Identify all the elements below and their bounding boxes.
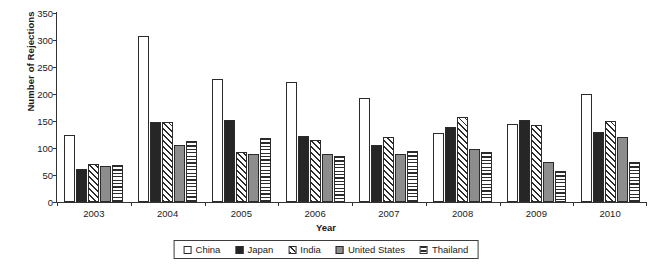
- x-axis-tick-label: 2003: [57, 208, 131, 219]
- bar-thailand-2004[interactable]: [186, 141, 197, 202]
- bar-india-2005[interactable]: [236, 152, 247, 202]
- bar-china-2008[interactable]: [433, 133, 444, 202]
- bar-united-states-2006[interactable]: [322, 154, 333, 202]
- bar-india-2007[interactable]: [383, 137, 394, 202]
- bar-group-2010: 2010: [573, 13, 647, 202]
- plot-area: 050100150200250300350 200320042005200620…: [57, 13, 647, 202]
- legend-swatch-icon: [288, 246, 296, 254]
- bar-japan-2005[interactable]: [224, 120, 235, 202]
- legend-label: United States: [348, 244, 405, 255]
- bar-india-2006[interactable]: [310, 140, 321, 202]
- x-axis-tick-mark: [646, 202, 647, 206]
- bar-china-2004[interactable]: [138, 36, 149, 202]
- y-axis-tick-label: 200: [23, 89, 53, 100]
- bar-chart: Number of Rejections 0501001502002503003…: [0, 0, 652, 267]
- bar-japan-2008[interactable]: [445, 127, 456, 202]
- legend-swatch-icon: [420, 246, 428, 254]
- bar-group-2003: 2003: [57, 13, 131, 202]
- bar-japan-2006[interactable]: [298, 136, 309, 202]
- x-axis-tick-mark: [278, 202, 279, 206]
- bar-china-2003[interactable]: [64, 135, 75, 203]
- bar-thailand-2010[interactable]: [629, 162, 640, 203]
- y-axis-tick-label: 0: [23, 197, 53, 208]
- chart-legend: ChinaJapanIndiaUnited StatesThailand: [174, 240, 479, 259]
- x-axis-tick-label: 2007: [352, 208, 426, 219]
- bar-india-2010[interactable]: [605, 121, 616, 202]
- bar-japan-2010[interactable]: [593, 132, 604, 202]
- bar-group-2008: 2008: [426, 13, 500, 202]
- bar-group-2004: 2004: [131, 13, 205, 202]
- y-axis-tick-label: 50: [23, 170, 53, 181]
- bar-india-2008[interactable]: [457, 117, 468, 202]
- x-axis-tick-label: 2009: [500, 208, 574, 219]
- bar-india-2004[interactable]: [162, 122, 173, 202]
- x-axis-tick-mark: [57, 202, 58, 206]
- legend-swatch-icon: [184, 246, 192, 254]
- legend-label: Japan: [247, 244, 273, 255]
- bar-united-states-2009[interactable]: [543, 162, 554, 203]
- bar-thailand-2003[interactable]: [112, 165, 123, 202]
- y-axis-tick-label: 300: [23, 35, 53, 46]
- bar-united-states-2007[interactable]: [395, 154, 406, 202]
- legend-swatch-icon: [336, 246, 344, 254]
- bar-thailand-2005[interactable]: [260, 138, 271, 202]
- bar-china-2006[interactable]: [286, 82, 297, 202]
- y-axis-tick-label: 100: [23, 143, 53, 154]
- legend-item-japan[interactable]: Japan: [235, 244, 273, 255]
- x-axis-tick-label: 2008: [426, 208, 500, 219]
- x-axis-tick-mark: [131, 202, 132, 206]
- bar-group-2006: 2006: [278, 13, 352, 202]
- bar-group-2009: 2009: [500, 13, 574, 202]
- bar-india-2003[interactable]: [88, 164, 99, 202]
- x-axis-tick-mark: [352, 202, 353, 206]
- bar-united-states-2008[interactable]: [469, 149, 480, 202]
- bar-thailand-2007[interactable]: [407, 151, 418, 202]
- bar-china-2010[interactable]: [581, 94, 592, 202]
- bar-group-2005: 2005: [205, 13, 279, 202]
- legend-label: Thailand: [432, 244, 468, 255]
- x-axis-tick-mark: [500, 202, 501, 206]
- legend-item-united-states[interactable]: United States: [336, 244, 405, 255]
- bar-groups: 20032004200520062007200820092010: [57, 13, 647, 202]
- bar-united-states-2003[interactable]: [100, 166, 111, 202]
- x-axis-title: Year: [0, 222, 652, 233]
- x-axis-tick-mark: [573, 202, 574, 206]
- bar-japan-2004[interactable]: [150, 122, 161, 202]
- bar-thailand-2006[interactable]: [334, 156, 345, 202]
- bar-thailand-2009[interactable]: [555, 171, 566, 202]
- x-axis-tick-label: 2005: [205, 208, 279, 219]
- legend-item-thailand[interactable]: Thailand: [420, 244, 468, 255]
- bar-china-2009[interactable]: [507, 124, 518, 202]
- bar-group-2007: 2007: [352, 13, 426, 202]
- legend-swatch-icon: [235, 246, 243, 254]
- bar-united-states-2004[interactable]: [174, 145, 185, 202]
- y-axis-tick-label: 250: [23, 62, 53, 73]
- bar-japan-2003[interactable]: [76, 169, 87, 202]
- bar-china-2007[interactable]: [359, 98, 370, 202]
- bar-thailand-2008[interactable]: [481, 152, 492, 202]
- bar-china-2005[interactable]: [212, 79, 223, 202]
- legend-item-india[interactable]: India: [288, 244, 321, 255]
- x-axis-tick-mark: [426, 202, 427, 206]
- y-axis-tick-label: 150: [23, 116, 53, 127]
- x-axis-tick-label: 2004: [131, 208, 205, 219]
- x-axis-tick-mark: [205, 202, 206, 206]
- legend-label: India: [300, 244, 321, 255]
- legend-label: China: [196, 244, 221, 255]
- bar-japan-2009[interactable]: [519, 120, 530, 202]
- y-axis-tick-label: 350: [23, 8, 53, 19]
- legend-item-china[interactable]: China: [184, 244, 221, 255]
- x-axis-tick-label: 2006: [278, 208, 352, 219]
- bar-india-2009[interactable]: [531, 125, 542, 202]
- bar-united-states-2005[interactable]: [248, 154, 259, 202]
- bar-japan-2007[interactable]: [371, 145, 382, 202]
- bar-united-states-2010[interactable]: [617, 137, 628, 202]
- x-axis-tick-label: 2010: [573, 208, 647, 219]
